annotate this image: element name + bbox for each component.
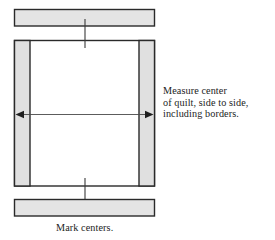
side-note-line-3: including borders.	[163, 108, 271, 120]
diagram-canvas	[0, 0, 275, 240]
bottom-note-text: Mark centers.	[56, 222, 113, 234]
bottom-border-strip-shape	[15, 200, 155, 217]
side-note-line-1: Measure center	[163, 85, 271, 97]
quilt-body	[15, 41, 155, 187]
bottom-border-strip	[15, 200, 155, 217]
quilt-center-field	[15, 41, 155, 187]
quilt-border-diagram: Measure center of quilt, side to side, i…	[0, 0, 275, 240]
side-note-line-2: of quilt, side to side,	[163, 97, 271, 109]
side-note-text: Measure center of quilt, side to side, i…	[163, 85, 271, 120]
